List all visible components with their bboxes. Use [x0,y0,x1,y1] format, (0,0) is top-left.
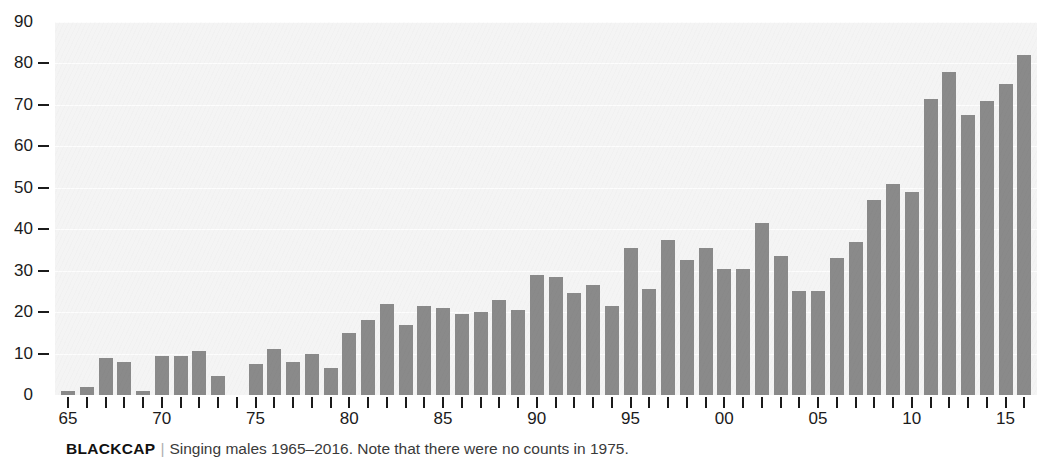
x-tick-mark-2010 [911,397,913,408]
bar-1968 [117,362,131,395]
bar-1976 [267,349,281,395]
bar-2000 [717,269,731,395]
x-tick-mark-2012 [948,397,950,408]
bar-2006 [830,258,844,395]
x-tick-label-1990: 90 [527,409,546,429]
x-tick-mark-1985 [442,397,444,408]
bar-1997 [661,240,675,395]
bar-1982 [380,304,394,395]
bar-1990 [530,275,544,395]
bar-1967 [99,358,113,395]
x-tick-mark-1977 [292,397,294,408]
x-tick-mark-1965 [67,397,69,408]
x-tick-mark-1982 [386,397,388,408]
bar-1973 [211,376,225,395]
x-tick-label-1985: 85 [434,409,453,429]
bar-1984 [417,306,431,395]
x-tick-mark-1980 [348,397,350,408]
bar-2010 [905,192,919,395]
x-tick-mark-1995 [630,397,632,408]
x-tick-label-1995: 95 [621,409,640,429]
x-tick-mark-1979 [330,397,332,408]
x-tick-mark-2015 [1005,397,1007,408]
chart-figure: 0102030405060708090 65707580859095000510… [0,0,1052,470]
x-tick-mark-2000 [723,397,725,408]
x-tick-mark-1996 [648,397,650,408]
bar-1996 [642,289,656,395]
x-tick-label-1965: 65 [59,409,78,429]
chart-caption: BLACKCAP|Singing males 1965–2016. Note t… [66,440,1026,458]
x-tick-mark-1986 [461,397,463,408]
bar-2002 [755,223,769,395]
x-tick-mark-2001 [742,397,744,408]
x-tick-label-1970: 70 [152,409,171,429]
x-tick-mark-2011 [930,397,932,408]
bar-2003 [774,256,788,395]
bar-1995 [624,248,638,395]
bar-1981 [361,320,375,395]
x-tick-label-2005: 05 [809,409,828,429]
bar-1978 [305,354,319,395]
bar-2007 [849,242,863,395]
caption-separator: | [155,440,169,457]
x-tick-mark-1976 [273,397,275,408]
bar-2008 [867,200,881,395]
y-tick-mark-80 [38,62,49,64]
x-tick-mark-2005 [817,397,819,408]
bar-1994 [605,306,619,395]
x-tick-mark-1984 [423,397,425,408]
x-tick-mark-2007 [855,397,857,408]
y-tick-label-60: 60 [14,136,33,156]
y-tick-label-20: 20 [14,302,33,322]
x-tick-mark-1988 [498,397,500,408]
bar-1985 [436,308,450,395]
bar-1999 [699,248,713,395]
x-tick-mark-1974 [236,397,238,408]
x-tick-mark-2016 [1023,397,1025,408]
x-tick-mark-2003 [780,397,782,408]
bar-1972 [192,351,206,395]
bar-1983 [399,325,413,395]
y-tick-mark-20 [38,311,49,313]
x-tick-mark-1970 [161,397,163,408]
y-tick-mark-70 [38,104,49,106]
x-tick-mark-2008 [873,397,875,408]
x-tick-mark-1975 [255,397,257,408]
x-tick-mark-1973 [217,397,219,408]
x-tick-mark-1966 [86,397,88,408]
y-tick-mark-40 [38,228,49,230]
x-tick-mark-2002 [761,397,763,408]
x-tick-mark-1981 [367,397,369,408]
bar-1998 [680,260,694,395]
x-tick-mark-1978 [311,397,313,408]
caption-description: Singing males 1965–2016. Note that there… [169,440,628,457]
x-tick-mark-1993 [592,397,594,408]
bar-2013 [961,115,975,395]
x-tick-label-2000: 00 [715,409,734,429]
y-tick-label-40: 40 [14,219,33,239]
x-tick-mark-2009 [892,397,894,408]
bar-2004 [792,291,806,395]
bar-1988 [492,300,506,395]
bar-1975 [249,364,263,395]
bar-1987 [474,312,488,395]
y-tick-label-70: 70 [14,95,33,115]
x-tick-mark-1990 [536,397,538,408]
bar-2001 [736,269,750,395]
x-tick-mark-1987 [480,397,482,408]
bar-series [55,22,1037,395]
x-tick-mark-2014 [986,397,988,408]
y-tick-label-0: 0 [24,385,33,405]
y-axis: 0102030405060708090 [0,0,55,417]
bar-1991 [549,277,563,395]
x-tick-label-1980: 80 [340,409,359,429]
y-tick-label-10: 10 [14,344,33,364]
y-tick-label-80: 80 [14,53,33,73]
y-tick-mark-10 [38,353,49,355]
y-tick-mark-30 [38,270,49,272]
y-tick-mark-60 [38,145,49,147]
bar-2011 [924,99,938,395]
bar-1980 [342,333,356,395]
x-tick-mark-1989 [517,397,519,408]
x-axis: 6570758085909500051015 [55,395,1037,440]
